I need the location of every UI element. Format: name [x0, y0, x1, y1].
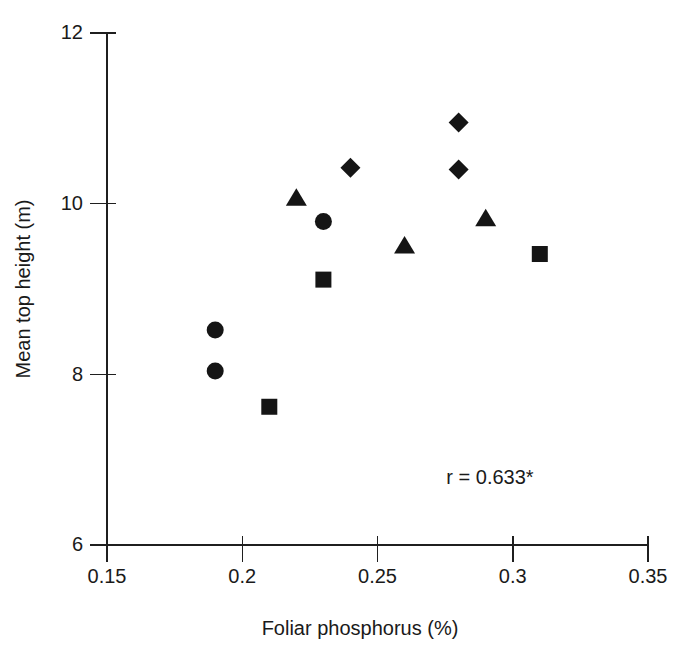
data-point-square — [315, 272, 331, 288]
data-point-triangle — [394, 236, 415, 254]
data-point-circle — [315, 213, 332, 230]
axis-tick-labels: 6810120.150.20.250.30.35 — [61, 21, 668, 587]
axis-ticks — [90, 33, 648, 562]
data-point-diamond — [340, 158, 360, 178]
data-point-diamond — [449, 160, 469, 180]
y-axis-title: Mean top height (m) — [12, 200, 34, 379]
data-point-circle — [207, 362, 224, 379]
x-tick-label-0.2: 0.2 — [228, 565, 256, 587]
data-point-triangle — [286, 188, 307, 206]
data-point-triangle — [475, 209, 496, 227]
x-tick-label-0.25: 0.25 — [358, 565, 397, 587]
y-tick-label-12: 12 — [61, 21, 83, 43]
data-point-square — [532, 246, 548, 262]
x-tick-label-0.35: 0.35 — [629, 565, 668, 587]
x-axis-title: Foliar phosphorus (%) — [262, 617, 459, 639]
data-point-square — [261, 399, 277, 415]
scatter-plot-figure: 6810120.150.20.250.30.35 Mean top height… — [0, 0, 689, 652]
x-tick-label-0.3: 0.3 — [499, 565, 527, 587]
y-tick-label-6: 6 — [72, 533, 83, 555]
chart-canvas: 6810120.150.20.250.30.35 Mean top height… — [0, 0, 689, 652]
y-tick-label-8: 8 — [72, 363, 83, 385]
data-markers — [207, 113, 548, 415]
data-point-diamond — [449, 113, 469, 133]
x-tick-label-0.15: 0.15 — [88, 565, 127, 587]
axes — [107, 33, 648, 545]
correlation-annotation: r = 0.633* — [446, 466, 534, 488]
y-tick-label-10: 10 — [61, 192, 83, 214]
data-point-circle — [207, 321, 224, 338]
